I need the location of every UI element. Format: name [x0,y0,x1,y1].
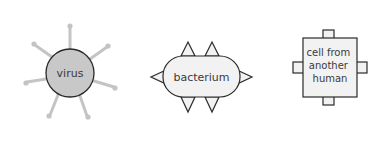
cell-tab-right [356,62,367,73]
bacterium-spike-bottom-left [181,97,195,112]
virus-label: virus [57,67,84,80]
cell-label: cell from another human [307,47,354,84]
virus-figure: virus [23,23,117,119]
cell-tab-left [293,62,304,73]
cell-label-line-1: cell from [307,47,351,58]
pathogen-diagram: virus bacterium cell from another human [0,0,387,157]
cell-figure: cell from another human [293,30,367,105]
bacterium-spike-bottom-right [205,97,219,112]
cell-label-line-2: another [309,60,349,71]
bacterium-spike-top-left [181,42,195,56]
bacterium-figure: bacterium [151,42,252,112]
cell-label-line-3: human [313,73,348,84]
bacterium-spike-top-right [205,42,219,56]
bacterium-label: bacterium [173,71,229,84]
